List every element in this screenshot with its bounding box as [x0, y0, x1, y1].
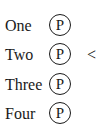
item-label: Three	[5, 75, 42, 95]
item-label: Four	[5, 104, 35, 124]
circled-p-icon: P	[49, 102, 71, 124]
list-item-one: One P	[0, 13, 106, 39]
circled-p-icon: P	[49, 14, 71, 36]
circled-p-icon: P	[49, 73, 71, 95]
list-item-four: Four P	[0, 101, 106, 127]
circled-p-icon: P	[49, 43, 71, 65]
item-label: Two	[5, 45, 33, 65]
list-item-three: Three P	[0, 72, 106, 98]
item-label: One	[5, 16, 32, 36]
pointer-marker: <	[87, 45, 96, 65]
list-item-two: Two P <	[0, 42, 106, 68]
